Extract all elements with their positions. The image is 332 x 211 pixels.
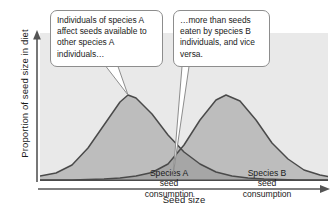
y-axis-label: Proportion of seed size in diet [19,14,30,174]
y-axis-arrow-icon [30,30,44,182]
callout-species-a: Individuals of species A affect seeds av… [50,10,163,67]
diet-overlap-figure: Species A seed consumption Species B see… [0,0,332,211]
callout-species-b: …more than seeds eaten by species B indi… [173,10,270,67]
x-axis-label: Seed size [38,194,330,205]
